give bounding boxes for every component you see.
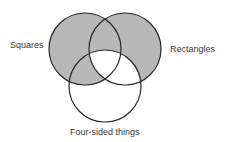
label-rectangles: Rectangles <box>170 45 215 54</box>
label-four-sided-things: Four-sided things <box>70 128 140 137</box>
label-squares: Squares <box>10 41 44 50</box>
venn-diagram <box>0 0 226 142</box>
